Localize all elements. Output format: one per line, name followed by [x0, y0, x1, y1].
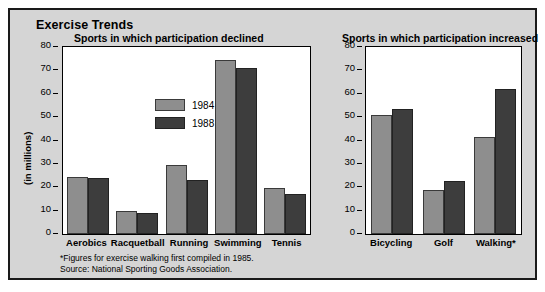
- y-tick-label: 80: [40, 39, 51, 50]
- y-tick: 30: [332, 163, 362, 164]
- y-tick-mark: [357, 186, 362, 187]
- y-tick: 80: [332, 46, 362, 47]
- y-tick-label: 10: [344, 203, 355, 214]
- bar-1988: [88, 178, 109, 234]
- legend-swatch-1988: [155, 117, 185, 129]
- bar-1984: [474, 137, 495, 234]
- x-axis-label: Aerobics: [62, 237, 111, 248]
- bar-group: [162, 47, 211, 234]
- y-tick-mark: [53, 93, 58, 94]
- chart-panel-declined: Sports in which participation declined (…: [10, 10, 322, 278]
- y-tick-mark: [357, 140, 362, 141]
- bar-groups-increased: [366, 47, 521, 234]
- bar-groups-declined: [63, 47, 310, 234]
- y-tick-label: 30: [344, 156, 355, 167]
- y-tick-label: 80: [344, 39, 355, 50]
- y-tick-mark: [357, 233, 362, 234]
- chart-figure: Exercise Trends Sports in which particip…: [8, 8, 537, 280]
- y-tick: 20: [28, 186, 58, 187]
- x-axis-label: Bicycling: [365, 237, 417, 248]
- bar-1988: [392, 109, 413, 234]
- bar-group: [261, 47, 310, 234]
- y-tick: 40: [28, 140, 58, 141]
- legend-swatch-1984: [155, 99, 185, 111]
- y-axis-ticks-right: 80706050403020100: [332, 46, 362, 233]
- y-tick: 80: [28, 46, 58, 47]
- y-tick-label: 30: [40, 156, 51, 167]
- footnote-source: Source: National Sporting Goods Associat…: [60, 264, 254, 275]
- x-axis-label: Racquetball: [111, 237, 165, 248]
- bar-1984: [215, 60, 236, 234]
- x-axis-labels-declined: AerobicsRacquetballRunningSwimmingTennis: [62, 237, 311, 248]
- y-tick: 50: [332, 116, 362, 117]
- legend: 1984 1988: [155, 99, 214, 135]
- legend-item: 1988: [155, 117, 214, 129]
- y-tick-mark: [357, 93, 362, 94]
- y-tick-label: 50: [40, 109, 51, 120]
- panel-title-increased: Sports in which participation increased: [342, 32, 538, 44]
- y-tick-label: 20: [344, 179, 355, 190]
- y-tick-label: 70: [40, 62, 51, 73]
- y-tick: 60: [28, 93, 58, 94]
- y-tick-label: 0: [46, 226, 51, 237]
- y-tick-mark: [53, 46, 58, 47]
- bar-1984: [423, 190, 444, 234]
- y-tick-label: 10: [40, 203, 51, 214]
- y-tick-label: 60: [40, 86, 51, 97]
- y-tick: 30: [28, 163, 58, 164]
- y-tick: 40: [332, 140, 362, 141]
- bar-group: [366, 47, 418, 234]
- y-tick-label: 40: [40, 133, 51, 144]
- y-tick-mark: [357, 163, 362, 164]
- legend-item: 1984: [155, 99, 214, 111]
- bar-1984: [166, 165, 187, 234]
- x-axis-label: Golf: [417, 237, 469, 248]
- y-tick-mark: [53, 140, 58, 141]
- bar-1988: [285, 194, 306, 234]
- y-tick-mark: [357, 69, 362, 70]
- x-axis-label: Tennis: [262, 237, 311, 248]
- bar-group: [112, 47, 161, 234]
- legend-label-1988: 1988: [192, 118, 214, 129]
- bar-1984: [116, 211, 137, 234]
- bar-group: [418, 47, 470, 234]
- footnotes: *Figures for exercise walking first comp…: [60, 253, 254, 275]
- y-tick: 60: [332, 93, 362, 94]
- y-tick-label: 0: [350, 226, 355, 237]
- y-tick: 20: [332, 186, 362, 187]
- bar-1988: [187, 180, 208, 234]
- y-tick: 0: [28, 233, 58, 234]
- y-tick-mark: [357, 210, 362, 211]
- y-tick-mark: [357, 116, 362, 117]
- footnote-asterisk: *Figures for exercise walking first comp…: [60, 253, 254, 264]
- bar-1988: [137, 213, 158, 234]
- bar-group: [63, 47, 112, 234]
- y-tick-mark: [53, 116, 58, 117]
- y-tick-mark: [53, 69, 58, 70]
- plot-area-declined: 1984 1988: [62, 46, 311, 235]
- panel-title-declined: Sports in which participation declined: [74, 32, 264, 44]
- x-axis-labels-increased: BicyclingGolfWalking*: [365, 237, 522, 248]
- legend-label-1984: 1984: [192, 100, 214, 111]
- y-tick-label: 50: [344, 109, 355, 120]
- y-tick: 0: [332, 233, 362, 234]
- bar-1984: [264, 188, 285, 234]
- y-tick-mark: [53, 186, 58, 187]
- y-axis-ticks-left: 80706050403020100: [28, 46, 58, 233]
- bar-1988: [495, 89, 516, 234]
- bar-group: [469, 47, 521, 234]
- y-tick-mark: [53, 210, 58, 211]
- y-tick: 70: [28, 69, 58, 70]
- bar-1988: [236, 68, 257, 234]
- y-tick-mark: [53, 233, 58, 234]
- y-tick-label: 70: [344, 62, 355, 73]
- bar-1988: [444, 181, 465, 234]
- bar-group: [211, 47, 260, 234]
- y-tick: 50: [28, 116, 58, 117]
- y-tick-label: 20: [40, 179, 51, 190]
- y-tick: 10: [332, 210, 362, 211]
- plot-area-increased: [365, 46, 522, 235]
- bar-1984: [67, 177, 88, 234]
- y-tick-label: 40: [344, 133, 355, 144]
- x-axis-label: Swimming: [213, 237, 262, 248]
